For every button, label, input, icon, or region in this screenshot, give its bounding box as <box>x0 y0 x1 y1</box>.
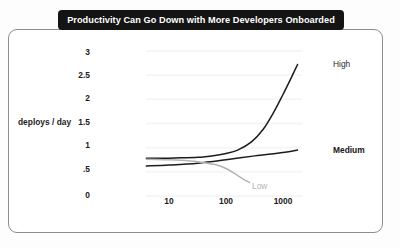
y-tick-0-5: .5 <box>56 164 90 174</box>
series-label-low: Low <box>252 181 267 191</box>
y-axis-title: deploys / day <box>18 117 71 127</box>
y-tick-3: 3 <box>56 47 90 57</box>
chart-title: Productivity Can Go Down with More Devel… <box>67 15 335 25</box>
y-tick-1: 1 <box>56 140 90 150</box>
series-label-high: High <box>333 59 350 69</box>
chart-figure: Productivity Can Go Down with More Devel… <box>0 0 400 248</box>
x-tick-10: 10 <box>149 196 189 206</box>
chart-title-banner: Productivity Can Go Down with More Devel… <box>58 10 344 30</box>
x-tick-1000: 1000 <box>263 196 303 206</box>
y-tick-0: 0 <box>56 190 90 200</box>
series-curve-high <box>146 65 297 159</box>
y-axis-title-text: deploys / day <box>18 117 71 127</box>
series-label-medium: Medium <box>333 145 365 155</box>
y-tick-2: 2 <box>56 93 90 103</box>
y-tick-2-5: 2.5 <box>56 70 90 80</box>
chart-gridlines <box>146 51 302 196</box>
x-tick-100: 100 <box>206 196 246 206</box>
